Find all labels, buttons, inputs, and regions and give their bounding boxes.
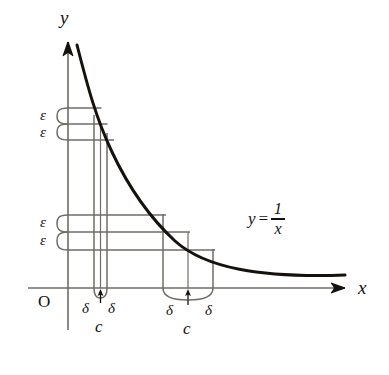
second-c-arrow [185,289,191,305]
delta-label-first-left: δ [82,301,89,316]
figure-drawing [0,0,389,375]
y-axis [63,42,73,330]
epsilon-label-upper-2: ε [40,125,46,140]
c-label-second: c [183,320,191,337]
equation-relation: = [258,210,269,227]
x-axis [28,283,345,293]
delta-label-first-right: δ [108,301,115,316]
lower-epsilon-braces [57,215,68,250]
upper-epsilon-braces [57,108,68,140]
epsilon-delta-limit-figure: y x O ε ε ε ε δ δ c δ δ c y = 1 x [0,0,389,375]
origin-label: O [38,293,50,310]
epsilon-label-lower-1: ε [40,215,46,230]
y-axis-label: y [60,8,68,27]
curve-equation-label: y = 1 x [248,201,285,237]
hyperbola-curve [77,45,345,276]
first-delta-vertical-lines [94,115,107,288]
equation-lhs: y [248,210,256,227]
x-axis-label: x [358,278,366,297]
first-c-arrow [98,289,104,303]
delta-label-second-left: δ [166,303,173,318]
c-label-first: c [95,318,103,335]
equation-fraction: 1 x [271,201,285,237]
epsilon-label-upper-1: ε [40,108,46,123]
epsilon-label-lower-2: ε [40,233,46,248]
delta-label-second-right: δ [205,303,212,318]
equation-numerator: 1 [271,201,285,218]
lower-band-horizontal-lines [68,215,215,250]
equation-denominator: x [271,220,284,237]
